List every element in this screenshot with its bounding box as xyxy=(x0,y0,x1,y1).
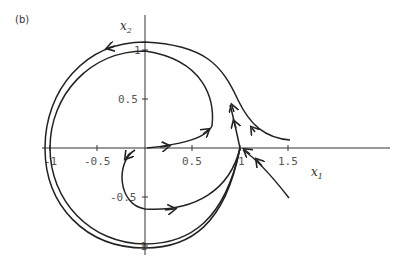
svg-text:1: 1 xyxy=(238,155,245,168)
svg-text:0.5: 0.5 xyxy=(118,93,138,106)
trajectories xyxy=(45,42,290,248)
svg-text:-0.5: -0.5 xyxy=(110,191,137,204)
phase-portrait: (b) -1 -0.5 0.5 1 1.5 1 0.5 -0.5 -1 x2 x… xyxy=(0,0,393,264)
y-axis-label: x2 xyxy=(120,19,132,35)
svg-text:0.5: 0.5 xyxy=(182,155,202,168)
svg-text:-1: -1 xyxy=(134,240,147,253)
panel-label: (b) xyxy=(15,14,29,25)
svg-text:1.5: 1.5 xyxy=(278,155,298,168)
x-axis-label: x1 xyxy=(311,165,323,181)
svg-text:-0.5: -0.5 xyxy=(84,155,111,168)
